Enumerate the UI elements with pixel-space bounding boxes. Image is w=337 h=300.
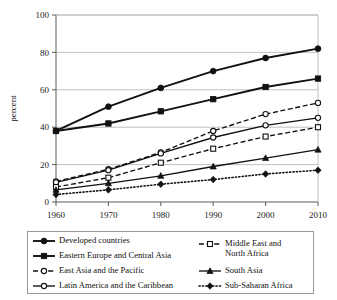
legend-marker — [41, 253, 46, 258]
marker-filled-diamond — [158, 181, 164, 188]
legend-marker — [41, 268, 46, 273]
marker-open-square — [263, 134, 268, 139]
legend-marker — [41, 238, 47, 244]
x-tick-label: 2000 — [257, 210, 276, 220]
x-tick-label: 1980 — [152, 210, 171, 220]
marker-filled-square — [263, 84, 268, 89]
legend-key-wrap — [198, 266, 222, 276]
marker-filled-triangle — [315, 146, 321, 152]
x-tick-label: 1970 — [99, 210, 118, 220]
marker-filled-diamond — [105, 187, 111, 194]
marker-filled-square — [53, 128, 58, 133]
legend-key-open-square — [198, 239, 222, 249]
legend-marker — [41, 283, 46, 288]
legend-label: Sub-Saharan Africa — [225, 280, 293, 290]
legend-key-filled-circle — [32, 236, 56, 246]
legend-marker — [208, 242, 213, 247]
series-5 — [54, 125, 321, 190]
y-tick-label: 100 — [36, 10, 50, 20]
chart-legend: Developed countriesEastern Europe and Ce… — [27, 231, 314, 294]
legend-key-open-circle — [32, 266, 56, 276]
legend-item-left-2[interactable]: Eastern Europe and Central Asia — [32, 250, 198, 261]
marker-filled-diamond — [315, 167, 321, 174]
marker-filled-circle — [315, 46, 321, 52]
marker-open-square — [316, 125, 321, 130]
legend-label: Eastern Europe and Central Asia — [59, 250, 171, 260]
marker-filled-circle — [41, 238, 47, 244]
legend-item-left-4[interactable]: Latin America and the Caribbean — [32, 280, 198, 291]
marker-filled-circle — [210, 68, 216, 74]
marker-open-circle — [315, 115, 320, 120]
marker-open-circle — [41, 283, 46, 288]
series-line — [56, 103, 318, 182]
y-tick-label: 40 — [40, 122, 50, 132]
marker-open-circle — [263, 123, 268, 128]
marker-filled-square — [315, 76, 320, 81]
legend-key-wrap — [32, 266, 56, 276]
legend-marker — [207, 283, 213, 290]
legend-item-right-3[interactable]: Sub-Saharan Africa — [198, 280, 319, 291]
legend-key-wrap — [32, 281, 56, 291]
urbanization-line-chart: 020406080100196019701980199020002010perc… — [0, 0, 337, 300]
marker-open-circle — [106, 168, 111, 173]
legend-label: Developed countries — [59, 235, 130, 245]
x-tick-label: 2010 — [309, 210, 328, 220]
legend-key-filled-square — [32, 251, 56, 261]
legend-key-filled-triangle — [198, 266, 222, 276]
legend-key-wrap — [198, 281, 222, 291]
y-tick-label: 20 — [40, 160, 50, 170]
marker-filled-square — [41, 253, 46, 258]
marker-filled-diamond — [210, 176, 216, 183]
marker-open-circle — [41, 268, 46, 273]
series-line — [56, 150, 318, 190]
legend-item-right-1[interactable]: Middle East and North Africa — [198, 238, 319, 258]
legend-key-wrap — [32, 236, 56, 246]
x-tick-label: 1990 — [204, 210, 223, 220]
y-tick-label: 80 — [40, 48, 50, 58]
legend-label: South Asia — [225, 265, 262, 275]
legend-item-left-1[interactable]: Developed countries — [32, 235, 198, 246]
marker-filled-circle — [106, 104, 112, 110]
marker-filled-square — [106, 121, 111, 126]
y-axis-title: percent — [8, 95, 18, 122]
marker-open-square — [158, 160, 163, 165]
legend-item-left-3[interactable]: East Asia and the Pacific — [32, 265, 198, 276]
legend-label: Middle East and North Africa — [225, 238, 281, 258]
marker-open-circle — [158, 151, 163, 156]
legend-key-wrap — [198, 239, 222, 249]
legend-key-open-circle — [32, 281, 56, 291]
marker-filled-diamond — [207, 283, 213, 290]
y-tick-label: 60 — [40, 85, 50, 95]
marker-filled-square — [211, 96, 216, 101]
marker-open-circle — [263, 112, 268, 117]
legend-item-right-2[interactable]: South Asia — [198, 265, 319, 276]
x-tick-label: 1960 — [47, 210, 66, 220]
series-6 — [53, 146, 321, 192]
marker-open-circle — [315, 100, 320, 105]
legend-key-filled-diamond — [198, 281, 222, 291]
marker-filled-diamond — [263, 171, 269, 178]
marker-filled-square — [158, 109, 163, 114]
marker-open-circle — [211, 135, 216, 140]
legend-label: East Asia and the Pacific — [59, 265, 144, 275]
marker-open-circle — [211, 128, 216, 133]
marker-filled-circle — [263, 55, 269, 61]
marker-filled-circle — [158, 85, 164, 91]
y-tick-label: 0 — [45, 197, 50, 207]
legend-label: Latin America and the Caribbean — [59, 280, 173, 290]
legend-key-wrap — [32, 251, 56, 261]
marker-open-square — [211, 146, 216, 151]
series-2 — [53, 76, 320, 134]
series-line — [56, 127, 318, 187]
marker-open-square — [208, 242, 213, 247]
